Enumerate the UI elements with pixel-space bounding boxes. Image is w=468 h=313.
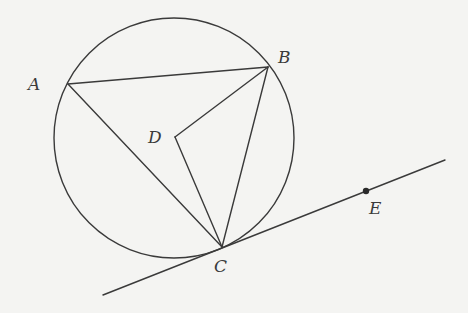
segment-dc xyxy=(175,137,222,247)
tangent-line-ce xyxy=(103,160,445,295)
label-a: A xyxy=(26,74,40,94)
segment-ac xyxy=(68,84,222,247)
point-e-dot xyxy=(363,188,369,194)
label-e: E xyxy=(368,198,382,218)
label-d: D xyxy=(147,127,162,147)
label-c: C xyxy=(214,256,227,276)
geometry-diagram: A B C D E xyxy=(0,0,468,313)
segment-ab xyxy=(68,67,268,84)
label-b: B xyxy=(277,47,291,67)
segment-bd xyxy=(175,67,268,137)
circle xyxy=(54,18,294,258)
